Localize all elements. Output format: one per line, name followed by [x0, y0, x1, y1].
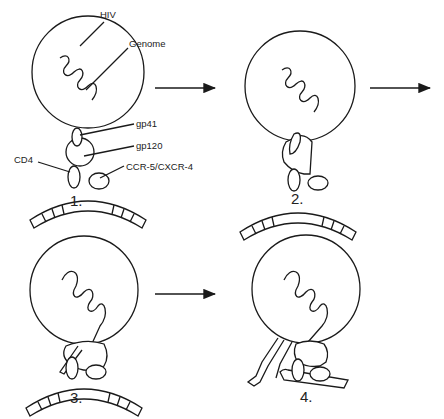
label-cd4: CD4 — [14, 154, 33, 165]
step-number: 4. — [300, 388, 313, 405]
step-number: 2. — [291, 190, 304, 207]
step-2-panel: 2. — [240, 31, 356, 240]
step-4-panel: 4. — [248, 235, 360, 405]
step-1-panel: HIV Genome gp41 gp120 CD4 CCR-5/CXCR-4 1… — [14, 9, 193, 228]
cd4-receptor — [68, 166, 80, 188]
label-gp41: gp41 — [136, 118, 157, 129]
label-genome: Genome — [129, 38, 165, 49]
hiv-pointer — [80, 22, 104, 46]
hiv-virion — [32, 16, 144, 128]
label-hiv: HIV — [100, 9, 117, 20]
label-coreceptor: CCR-5/CXCR-4 — [126, 161, 193, 172]
gp41 — [72, 128, 82, 146]
genome-helix — [60, 56, 96, 100]
step-number: 3. — [70, 389, 83, 406]
step-3-panel: 3. — [26, 236, 142, 416]
label-gp120: gp120 — [136, 140, 162, 151]
hiv-entry-diagram: HIV Genome gp41 gp120 CD4 CCR-5/CXCR-4 1… — [0, 0, 444, 419]
step-number: 1. — [70, 192, 83, 209]
genome-pointer — [86, 48, 128, 90]
